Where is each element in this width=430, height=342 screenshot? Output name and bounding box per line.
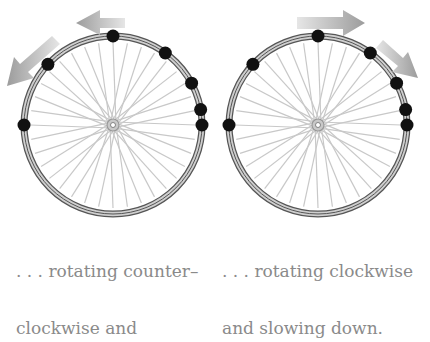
marker-dot <box>390 77 403 90</box>
marker-dot <box>159 46 172 59</box>
arrow-right-icon <box>297 10 365 36</box>
marker-dot <box>41 58 54 71</box>
arrow-left-icon <box>76 10 125 35</box>
caption-right-line1: . . . rotating clockwise <box>222 262 413 281</box>
marker-dot <box>246 58 259 71</box>
marker-dot <box>364 46 377 59</box>
marker-dot <box>18 119 31 132</box>
wheel-right <box>223 30 414 215</box>
caption-right-line2: and slowing down. <box>222 319 413 338</box>
marker-dot <box>399 103 412 116</box>
marker-dot <box>194 103 207 116</box>
spokes <box>30 42 196 208</box>
caption-right: . . . rotating clockwise and slowing dow… <box>222 224 413 342</box>
caption-left-line2: clockwise and <box>16 319 198 338</box>
caption-left-line1: . . . rotating counter– <box>16 262 198 281</box>
marker-dot <box>401 119 414 132</box>
marker-dot <box>185 77 198 90</box>
marker-dot <box>196 119 209 132</box>
spokes <box>235 42 401 208</box>
caption-left: . . . rotating counter– clockwise and <box>16 224 198 342</box>
marker-dot <box>223 119 236 132</box>
wheel-left <box>18 30 209 215</box>
marker-dot <box>107 30 120 43</box>
marker-dot <box>312 30 325 43</box>
